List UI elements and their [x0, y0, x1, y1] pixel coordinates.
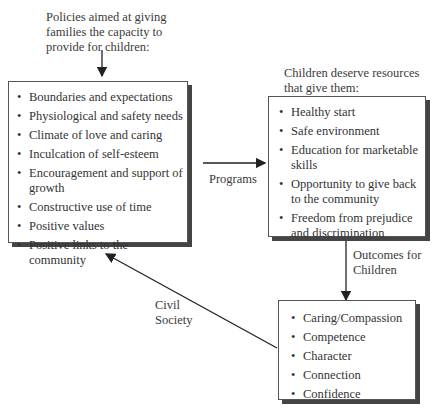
policy-item: Positive links to the community — [17, 238, 187, 268]
policies-label: Policies aimed at giving families the ca… — [46, 10, 186, 55]
outcome-item: Caring/Compassion — [291, 311, 409, 326]
resource-item: Healthy start — [279, 105, 419, 120]
outcomes-label: Outcomes for Children — [353, 248, 433, 278]
policy-item: Constructive use of time — [17, 200, 187, 215]
outcome-item: Competence — [291, 330, 409, 345]
policy-item: Inculcation of self-esteem — [17, 147, 187, 162]
policy-item: Climate of love and caring — [17, 128, 187, 143]
outcomes-box: Caring/CompassionCompetenceCharacterConn… — [278, 300, 416, 400]
outcome-item: Connection — [291, 368, 409, 383]
outcome-item: Confidence — [291, 387, 409, 402]
family-capacity-box: Boundaries and expectationsPhysiological… — [8, 81, 188, 243]
outcome-item: Character — [291, 349, 409, 364]
resource-item: Safe environment — [279, 124, 419, 139]
resource-item: Education for marketable skills — [279, 143, 419, 173]
resources-label: Children deserve resources that give the… — [284, 66, 424, 96]
policy-item: Boundaries and expectations — [17, 90, 187, 105]
policy-item: Encouragement and support of growth — [17, 166, 187, 196]
resource-item: Opportunity to give back to the communit… — [279, 177, 419, 207]
programs-label: Programs — [209, 172, 257, 187]
resource-item: Freedom from prejudice and discriminatio… — [279, 211, 419, 241]
policy-item: Physiological and safety needs — [17, 109, 187, 124]
resources-box: Healthy startSafe environmentEducation f… — [268, 96, 426, 237]
policy-item: Positive values — [17, 219, 187, 234]
civil-society-label: Civil Society — [155, 298, 215, 328]
